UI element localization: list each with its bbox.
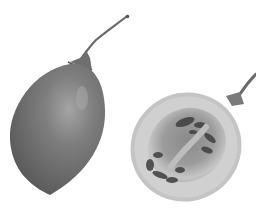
cut-fruit-stem	[226, 74, 256, 106]
photo-scene	[0, 0, 256, 224]
whole-fruit-stem	[68, 15, 129, 70]
whole-fruit	[10, 64, 105, 195]
